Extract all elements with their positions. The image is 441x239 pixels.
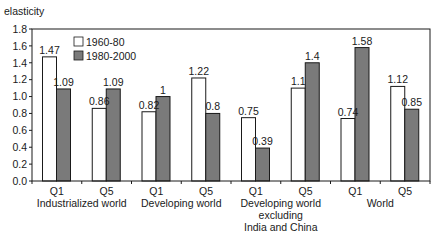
y-tick-label: 1.4: [12, 57, 27, 69]
value-label: 1.12: [388, 73, 409, 85]
value-label: 0.82: [139, 99, 160, 111]
y-axis-title: elasticity: [4, 5, 45, 17]
value-label: 0.86: [89, 95, 110, 107]
x-tick-label: Q5: [398, 185, 412, 197]
bar-1980-2000-0: [57, 89, 71, 181]
value-label: 0.85: [402, 96, 423, 108]
bar-1980-2000-7: [405, 109, 419, 181]
group-label: Developing world: [240, 197, 321, 209]
x-tick-label: Q1: [149, 185, 163, 197]
value-label: 1.22: [189, 65, 210, 77]
x-tick-label: Q5: [100, 185, 114, 197]
y-tick-label: 0.2: [12, 158, 27, 170]
y-tick-label: 1.6: [12, 40, 27, 52]
bar-1960-80-5: [291, 88, 305, 181]
value-label: 1.47: [39, 44, 60, 56]
value-label: 0.39: [252, 135, 273, 147]
x-tick-label: Q5: [199, 185, 213, 197]
group-label: Industrialized world: [37, 197, 127, 209]
value-label: 1.4: [305, 50, 320, 62]
legend-label-1960-80: 1960-80: [86, 36, 125, 48]
y-tick-label: 0.0: [12, 175, 27, 187]
y-tick-label: 1.2: [12, 73, 27, 85]
bar-1980-2000-5: [305, 63, 319, 181]
bars: [43, 48, 419, 181]
bar-1960-80-1: [92, 108, 106, 181]
bar-1980-2000-3: [206, 113, 220, 181]
group-label: excluding: [259, 209, 304, 221]
value-label: 1.1: [291, 75, 306, 87]
bar-1980-2000-4: [256, 148, 270, 181]
legend: 1960-80 1980-2000: [74, 36, 136, 62]
bar-1960-80-3: [192, 78, 206, 181]
value-label: 1.58: [352, 35, 373, 47]
elasticity-bar-chart: elasticity 0.00.20.40.60.81.01.21.41.61.…: [0, 0, 441, 239]
x-tick-label: Q1: [50, 185, 64, 197]
x-tick-label: Q5: [299, 185, 313, 197]
x-tick-label: Q1: [249, 185, 263, 197]
value-label: 0.74: [338, 106, 359, 118]
x-axis: Q1Q5Q1Q5Q1Q5Q1Q5Industrialized worldDeve…: [32, 181, 430, 233]
legend-label-1980-2000: 1980-2000: [86, 50, 136, 62]
value-label: 1.09: [103, 76, 124, 88]
value-label: 0.75: [238, 105, 259, 117]
y-axis: 0.00.20.40.60.81.01.21.41.61.8: [12, 23, 32, 187]
y-tick-label: 0.8: [12, 107, 27, 119]
group-label: Developing world: [141, 197, 222, 209]
group-label: India and China: [244, 221, 318, 233]
x-tick-label: Q1: [348, 185, 362, 197]
value-label: 1.09: [53, 76, 74, 88]
bar-1960-80-4: [242, 118, 256, 181]
bar-1960-80-6: [341, 119, 355, 181]
value-label: 0.8: [205, 100, 220, 112]
bar-1960-80-2: [142, 112, 156, 181]
legend-swatch-1980-2000: [74, 51, 83, 60]
legend-swatch-1960-80: [74, 37, 83, 46]
y-tick-label: 1.8: [12, 23, 27, 35]
value-label: 1: [160, 84, 166, 96]
y-tick-label: 1.0: [12, 90, 27, 102]
y-tick-label: 0.6: [12, 124, 27, 136]
group-label: World: [367, 197, 394, 209]
y-tick-label: 0.4: [12, 141, 27, 153]
